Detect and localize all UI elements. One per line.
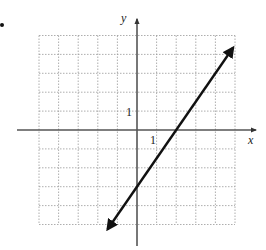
- graph: x y 1 1: [0, 0, 266, 250]
- x-tick-label: 1: [150, 133, 156, 147]
- bullet-dot: [0, 23, 4, 27]
- graph-line: [108, 48, 233, 229]
- y-axis-label: y: [120, 11, 127, 25]
- y-tick-label: 1: [126, 105, 132, 119]
- x-axis-label: x: [247, 133, 254, 147]
